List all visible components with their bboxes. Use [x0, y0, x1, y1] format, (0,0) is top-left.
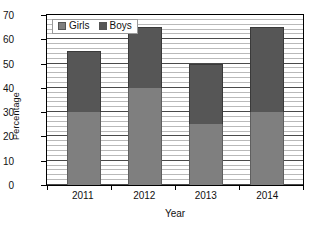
legend-label-boys: Boys: [110, 21, 132, 31]
y-tick-label: 40: [0, 82, 14, 93]
square-swatch-icon: [58, 22, 66, 30]
legend-item-girls: Girls: [58, 21, 90, 31]
x-axis-title: Year: [46, 208, 304, 219]
y-tick-label: 50: [0, 58, 14, 69]
bar-segment-boys[interactable]: [250, 27, 284, 112]
bar-stack[interactable]: [189, 64, 223, 185]
plot-area: [46, 14, 304, 186]
legend-item-boys: Boys: [99, 21, 132, 31]
y-tick-label: 10: [0, 155, 14, 166]
y-tick-label: 0: [0, 180, 14, 191]
x-tick-label: 2014: [250, 190, 284, 201]
bar-stack[interactable]: [250, 27, 284, 185]
bars-layer: [47, 15, 303, 185]
x-tick-label: 2013: [189, 190, 223, 201]
bar-segment-boys[interactable]: [128, 27, 162, 88]
x-axis-labels: 2011201220132014: [46, 190, 304, 201]
bar-segment-girls[interactable]: [189, 124, 223, 185]
y-tick-mark: [41, 136, 46, 137]
bar-segment-boys[interactable]: [189, 64, 223, 125]
bar-stack[interactable]: [128, 27, 162, 185]
y-tick-mark: [41, 161, 46, 162]
y-tick-mark: [41, 112, 46, 113]
y-tick-label: 20: [0, 131, 14, 142]
y-tick-mark: [41, 185, 46, 186]
square-swatch-icon: [99, 22, 107, 30]
y-tick-label: 30: [0, 107, 14, 118]
bar-segment-girls[interactable]: [250, 112, 284, 185]
y-tick-mark: [41, 64, 46, 65]
y-tick-label: 60: [0, 34, 14, 45]
bar-stack[interactable]: [67, 51, 101, 185]
y-tick-mark: [41, 88, 46, 89]
legend-label-girls: Girls: [69, 21, 90, 31]
stacked-bar-chart: Percentage 010203040506070 2011201220132…: [0, 0, 319, 232]
chart-legend: Girls Boys: [52, 19, 138, 34]
x-tick-label: 2012: [127, 190, 161, 201]
y-tick-mark: [41, 39, 46, 40]
bar-segment-boys[interactable]: [67, 51, 101, 112]
y-tick-mark: [41, 15, 46, 16]
y-tick-label: 70: [0, 10, 14, 21]
bar-segment-girls[interactable]: [128, 88, 162, 185]
x-tick-label: 2011: [66, 190, 100, 201]
bar-segment-girls[interactable]: [67, 112, 101, 185]
